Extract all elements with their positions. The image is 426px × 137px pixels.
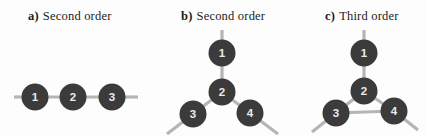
panel-c-node-2-label: 2	[361, 85, 367, 97]
panel-b-node-4-label: 4	[247, 107, 254, 119]
panel-a-node-2-label: 2	[70, 91, 76, 103]
panel-a-node-1-label: 1	[32, 91, 39, 103]
panel-b-node-3-label: 3	[190, 108, 196, 120]
panel-b-node-1-label: 1	[219, 47, 226, 59]
figure-canvas: 12312341234	[0, 0, 426, 137]
figure: a)Second order b)Second order c)Third or…	[0, 0, 426, 137]
panel-c-node-4-label: 4	[391, 105, 398, 117]
panel-b-node-2-label: 2	[219, 86, 225, 98]
panel-c-node-3-label: 3	[333, 107, 339, 119]
panel-c-node-1-label: 1	[361, 47, 368, 59]
panel-a-node-3-label: 3	[109, 91, 115, 103]
